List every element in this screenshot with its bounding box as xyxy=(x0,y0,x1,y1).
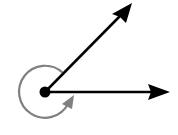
reflex-angle-diagram: reflex-angle xyxy=(0,0,178,135)
horizontal-ray-arrowhead-icon xyxy=(148,84,170,100)
diagonal-ray xyxy=(45,14,122,92)
arc-arrowhead-icon xyxy=(62,95,74,109)
vertex-dot xyxy=(40,87,51,98)
diagram-canvas xyxy=(0,0,178,135)
